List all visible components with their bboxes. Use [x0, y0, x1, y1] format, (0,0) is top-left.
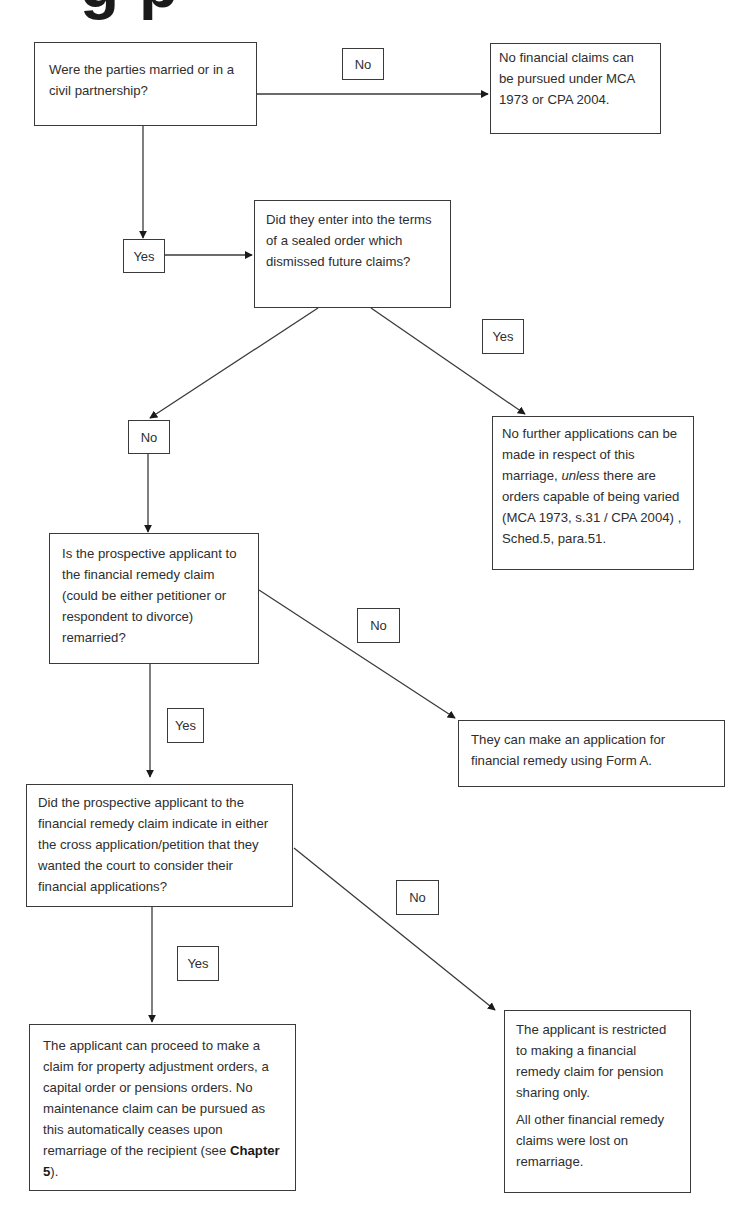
question-married-or-civil-partnership: Were the parties married or in a civil p…	[34, 42, 257, 126]
question-indicated-financial-applications: Did the prospective applicant to the fin…	[26, 784, 293, 907]
result-apply-form-a: They can make an application for financi…	[458, 720, 725, 787]
result-no-further-applications: No further applications can be made in r…	[492, 416, 694, 570]
edge-label-yes: Yes	[123, 239, 165, 273]
edge-label-no: No	[357, 608, 400, 643]
edge-label-yes: Yes	[482, 319, 524, 354]
result-proceed-property-capital-pension: The applicant can proceed to make a clai…	[29, 1024, 296, 1191]
edge-label-no: No	[128, 420, 170, 454]
edge-label-yes: Yes	[177, 946, 219, 981]
edge-q4-no	[294, 848, 495, 1010]
edge-label-no: No	[396, 880, 439, 915]
edge-label-yes: Yes	[167, 708, 204, 743]
question-sealed-order: Did they enter into the terms of a seale…	[254, 200, 451, 308]
edge-q2-no	[150, 308, 318, 418]
result-no-financial-claims: No financial claims can be pursued under…	[490, 43, 661, 134]
result-pension-sharing-only: The applicant is restricted to making a …	[504, 1010, 691, 1193]
edge-label-no: No	[342, 48, 384, 80]
question-applicant-remarried: Is the prospective applicant to the fina…	[49, 533, 259, 664]
